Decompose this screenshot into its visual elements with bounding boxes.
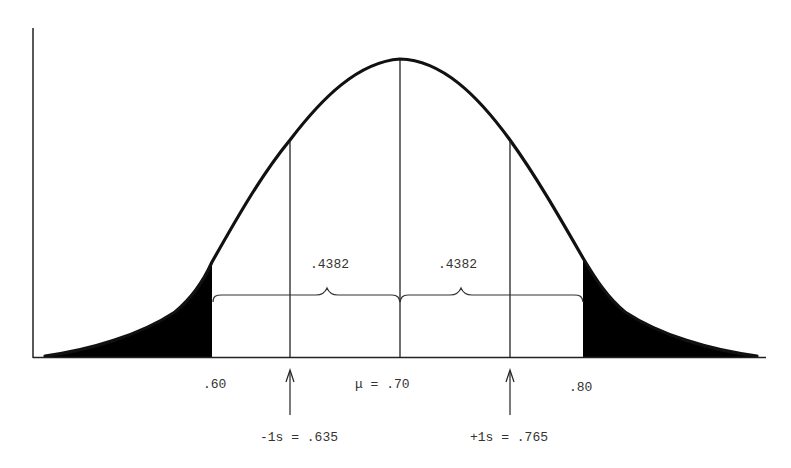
left-area-brace: [213, 288, 400, 302]
plus-1s-label: +1s = .765: [470, 430, 548, 445]
minus-1s-label: -1s = .635: [260, 430, 338, 445]
right-area-label: .4382: [438, 257, 477, 272]
mean-label: μ = .70: [355, 377, 410, 392]
left-tail-shaded-area: [45, 262, 212, 357]
upper-cutoff-label: .80: [569, 380, 592, 395]
lower-cutoff-label: .60: [203, 377, 226, 392]
left-area-label: .4382: [310, 257, 349, 272]
normal-curve-diagram: [0, 0, 791, 468]
right-area-brace: [400, 288, 583, 302]
bell-curve: [45, 59, 757, 356]
right-tail-shaded-area: [583, 258, 757, 357]
